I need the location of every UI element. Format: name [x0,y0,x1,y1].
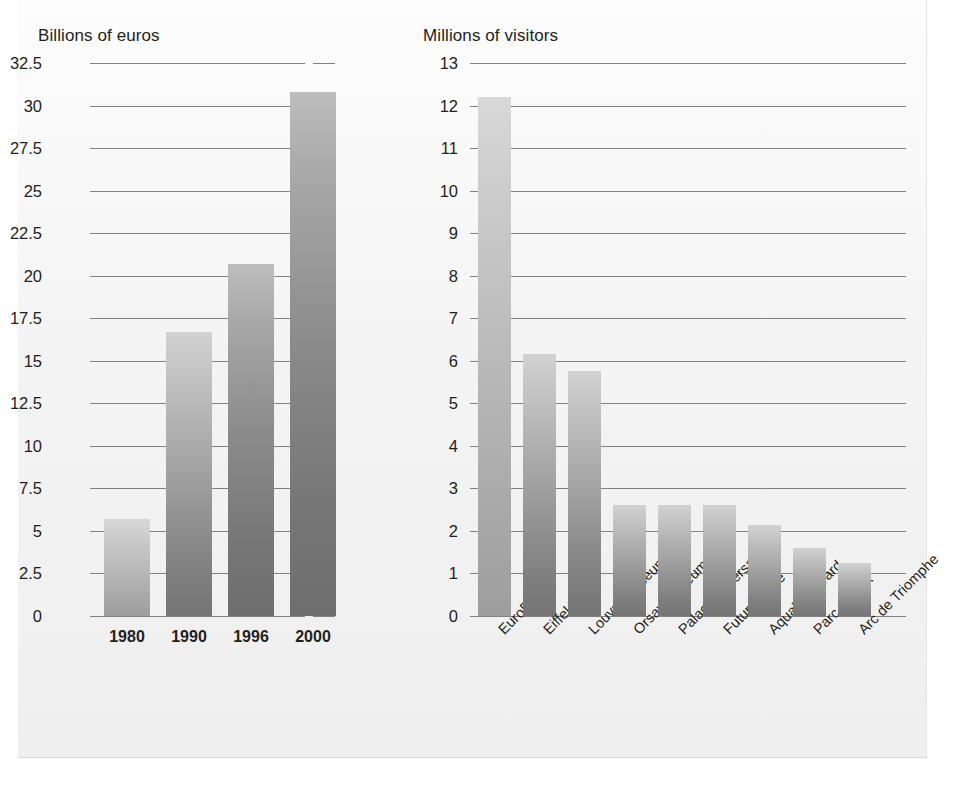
bar [523,354,556,616]
y-axis-tick-label: 30 [0,97,42,116]
y-axis-tick-label: 20 [0,267,42,286]
bar [703,505,736,616]
bar [478,97,511,616]
y-axis-tick-label: 4 [388,437,458,456]
y-axis-tick-label: 5 [0,522,42,541]
gridline [470,276,906,277]
y-axis-tick-label: 32.5 [0,54,42,73]
gridline [470,318,906,319]
x-axis-tick-label: 2000 [273,628,353,646]
y-axis-tick-label: 17.5 [0,309,42,328]
y-axis-tick-label: 11 [388,139,458,158]
gridline [90,106,305,107]
axis-tick [313,616,335,617]
y-axis-tick-label: 3 [388,479,458,498]
right-plot-area: 012345678910111213EuroDisneyEiffel Tower… [470,63,906,616]
y-axis-tick-label: 9 [388,224,458,243]
gridline [90,233,305,234]
right-chart-title: Millions of visitors [423,26,558,46]
bar [228,264,274,616]
y-axis-tick-label: 22.5 [0,224,42,243]
bar [613,505,646,616]
bar [658,505,691,616]
y-axis-tick-label: 27.5 [0,139,42,158]
bar [104,519,150,616]
y-axis-tick-label: 1 [388,564,458,583]
y-axis-tick-label: 0 [388,607,458,626]
y-axis-tick-label: 5 [388,394,458,413]
y-axis-tick-label: 8 [388,267,458,286]
gridline [90,63,305,64]
bar [290,92,336,616]
gridline [470,233,906,234]
bar [748,525,781,616]
gridline [470,106,906,107]
y-axis-tick-label: 2.5 [0,564,42,583]
bar [568,371,601,616]
y-axis-tick-label: 7.5 [0,479,42,498]
y-axis-tick-label: 10 [388,182,458,201]
y-axis-tick-label: 12.5 [0,394,42,413]
y-axis-tick-label: 2 [388,522,458,541]
y-axis-tick-label: 0 [0,607,42,626]
gridline [90,616,305,617]
left-plot-area: 02.557.51012.51517.52022.52527.53032.519… [90,63,343,616]
bar [166,332,212,616]
y-axis-tick-label: 25 [0,182,42,201]
bar [793,548,826,616]
left-chart-title: Billions of euros [38,26,160,46]
y-axis-tick-label: 13 [388,54,458,73]
y-axis-tick-label: 6 [388,352,458,371]
bar [838,563,871,616]
gridline [470,63,906,64]
gridline [90,191,305,192]
y-axis-tick-label: 15 [0,352,42,371]
figure-canvas: Billions of euros 02.557.51012.51517.520… [0,0,956,788]
axis-tick [313,63,335,64]
y-axis-tick-label: 10 [0,437,42,456]
gridline [470,148,906,149]
y-axis-tick-label: 12 [388,97,458,116]
gridline [90,148,305,149]
y-axis-tick-label: 7 [388,309,458,328]
gridline [470,191,906,192]
